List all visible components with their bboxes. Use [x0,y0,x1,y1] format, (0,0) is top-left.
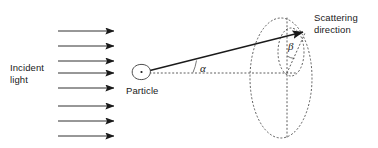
beta-arc [287,56,295,59]
beta-radius-line [287,33,305,73]
particle-centre-dot [140,71,142,73]
scattering-direction-label: Scattering direction [314,12,358,35]
alpha-arc [193,61,197,73]
scattering-diagram: Incident light Particle Scattering direc… [0,0,378,148]
scattering-direction-arrow [144,32,303,72]
beta-angle-label: β [288,40,293,52]
sphere-outline [250,18,312,138]
incident-beam-arrows [58,31,114,136]
alpha-angle-label: α [200,62,206,74]
incident-light-label: Incident light [10,62,44,85]
particle-label: Particle [126,85,158,97]
